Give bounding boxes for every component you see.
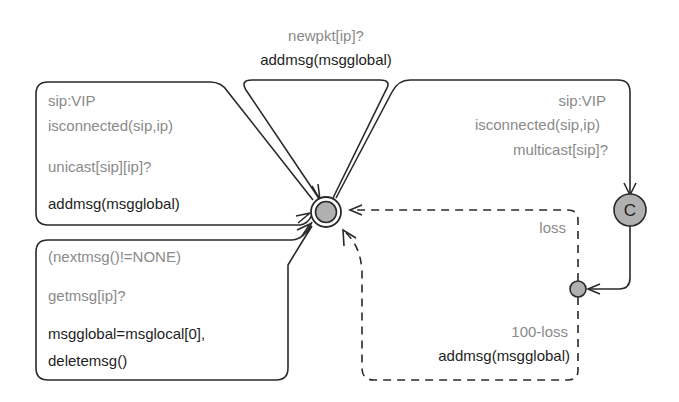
edge-committed-to-branch bbox=[588, 226, 630, 289]
getmsg-guard: (nextmsg()!=NONE) bbox=[48, 248, 181, 265]
top-loop-update: addmsg(msgglobal) bbox=[260, 51, 392, 68]
top-loop-guard: newpkt[ip]? bbox=[288, 27, 364, 44]
automaton-diagram: C newpkt[ip]? addmsg(msgglobal) sip:VIP … bbox=[0, 0, 679, 402]
committed-marker: C bbox=[624, 201, 636, 220]
deliver-update: addmsg(msgglobal) bbox=[438, 347, 570, 364]
getmsg-sync: getmsg[ip]? bbox=[48, 287, 126, 304]
unicast-select: sip:VIP bbox=[48, 92, 96, 109]
arrowhead-prob-deliver bbox=[343, 230, 356, 246]
loss-weight: loss bbox=[539, 219, 566, 236]
branchpoint[interactable] bbox=[570, 281, 586, 297]
unicast-update: addmsg(msgglobal) bbox=[48, 195, 180, 212]
unicast-sync: unicast[sip][ip]? bbox=[48, 158, 151, 175]
location-main-inner bbox=[316, 202, 337, 223]
multicast-guard: isconnected(sip,ip) bbox=[475, 116, 600, 133]
location-main[interactable] bbox=[311, 197, 341, 227]
multicast-sync: multicast[sip]? bbox=[513, 141, 608, 158]
location-committed[interactable]: C bbox=[614, 194, 646, 226]
unicast-guard: isconnected(sip,ip) bbox=[48, 117, 173, 134]
arrowhead-top-loop bbox=[312, 184, 320, 200]
getmsg-update-line2: deletemsg() bbox=[48, 352, 127, 369]
deliver-weight: 100-loss bbox=[511, 323, 568, 340]
multicast-select: sip:VIP bbox=[558, 92, 606, 109]
getmsg-update-line1: msgglobal=msglocal[0], bbox=[48, 325, 205, 342]
